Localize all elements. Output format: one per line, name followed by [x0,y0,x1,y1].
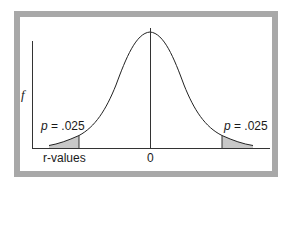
p-symbol: p [224,119,231,133]
center-tick-label: 0 [147,152,154,164]
y-axis-label: f [21,88,25,101]
p-value: = .025 [48,119,85,133]
left-tail-annotation: p = .025 [41,120,85,132]
right-tail-annotation: p = .025 [224,120,268,132]
p-symbol: p [41,119,48,133]
x-axis-label: r-values [43,152,86,164]
p-value: = .025 [231,119,268,133]
